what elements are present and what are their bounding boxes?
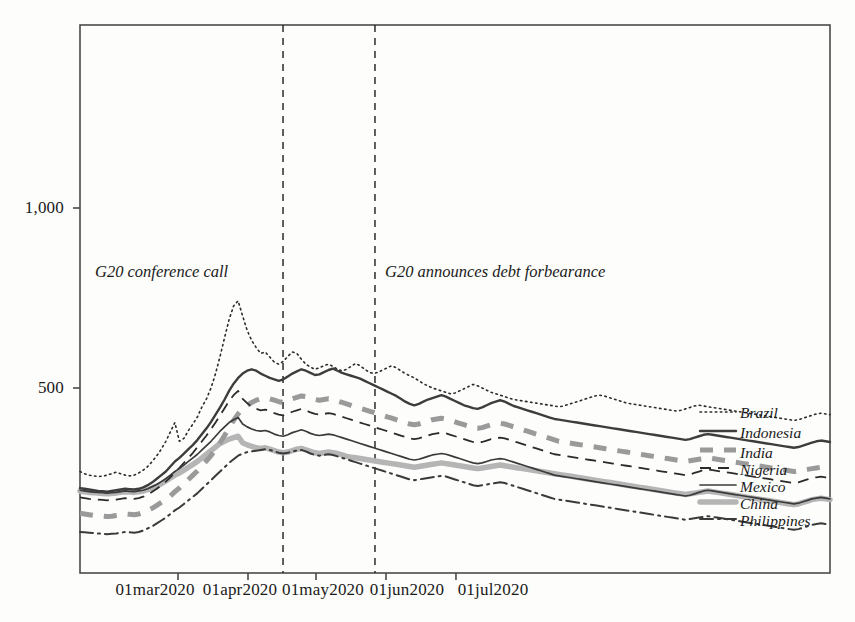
legend-item-india: India — [740, 445, 773, 461]
legend-item-brazil: Brazil — [740, 405, 778, 421]
x-tick-label-01jul2020: 01jul2020 — [442, 580, 544, 600]
legend-item-mexico: Mexico — [740, 479, 786, 495]
legend-item-china: China — [740, 496, 778, 512]
legend-line-samples — [700, 412, 736, 519]
event-vertical-lines — [283, 25, 375, 573]
annotation-g20-debt-forbearance: G20 announces debt forbearance — [385, 262, 605, 282]
series-line-india — [80, 396, 830, 517]
legend-item-nigeria: Nigeria — [740, 462, 787, 478]
annotation-g20-conference-call: G20 conference call — [95, 262, 228, 282]
chart-plot-area — [0, 0, 855, 622]
y-axis-ticks — [73, 208, 80, 388]
legend-item-philippines: Philippines — [740, 513, 811, 529]
y-tick-label-1000: 1,000 — [0, 198, 64, 218]
x-axis-ticks — [178, 573, 456, 580]
y-tick-label-500: 500 — [0, 378, 64, 398]
series-line-brazil — [80, 301, 830, 477]
series-lines — [80, 301, 830, 534]
chart-container: 1,000 500 01mar2020 01apr2020 01may2020 … — [0, 0, 855, 622]
legend-item-indonesia: Indonesia — [740, 425, 801, 441]
